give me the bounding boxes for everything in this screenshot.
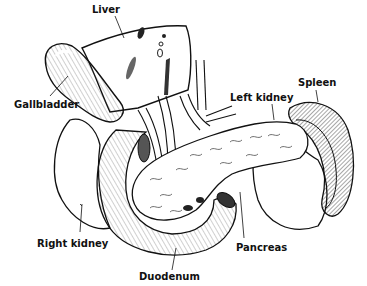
label-right-kidney: Right kidney — [37, 239, 108, 249]
label-pancreas: Pancreas — [236, 243, 287, 253]
label-spleen: Spleen — [298, 78, 336, 88]
label-duodenum: Duodenum — [139, 272, 200, 282]
label-liver: Liver — [92, 5, 120, 15]
label-gallbladder: Gallbladder — [14, 100, 79, 110]
label-left-kidney: Left kidney — [230, 93, 293, 103]
anatomy-diagram: Liver Gallbladder Left kidney Spleen Rig… — [0, 0, 367, 286]
